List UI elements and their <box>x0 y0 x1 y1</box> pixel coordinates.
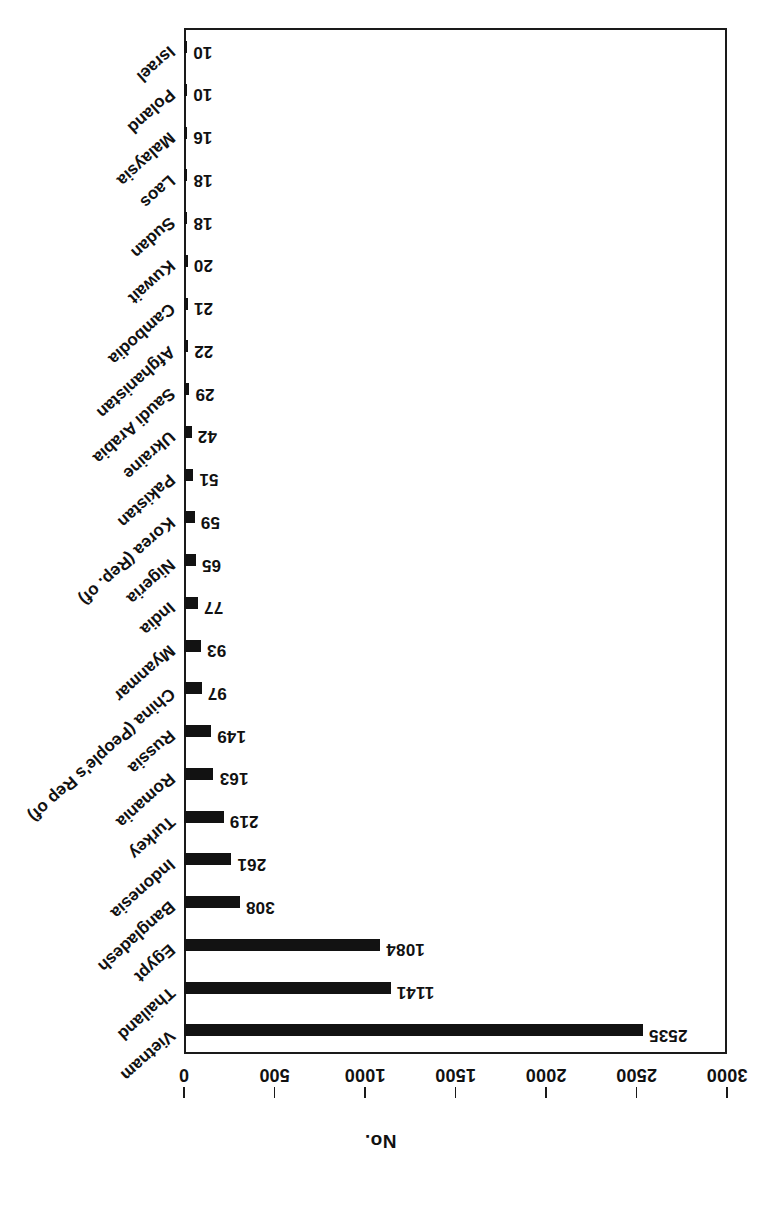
value-axis-tick <box>274 1087 276 1098</box>
value-axis-tick-label: 0 <box>179 1064 189 1085</box>
value-axis-tick <box>183 1087 185 1098</box>
category-label: Poland <box>124 85 178 136</box>
figure-rotation-wrapper: No. 050010001500200025003000 25351141108… <box>0 0 761 1208</box>
category-label: India <box>136 598 178 638</box>
value-axis-tick-label: 3000 <box>707 1064 748 1085</box>
bar-chart-figure: No. 050010001500200025003000 25351141108… <box>0 0 761 1208</box>
value-axis-title: No. <box>0 1130 761 1152</box>
value-axis-tick-label: 2000 <box>526 1064 567 1085</box>
value-axis-tick <box>455 1087 457 1098</box>
value-axis: 050010001500200025003000 <box>184 1054 727 1098</box>
category-label: Sudan <box>127 214 178 262</box>
value-axis-tick-label: 2500 <box>616 1064 657 1085</box>
value-axis-tick-label: 500 <box>259 1064 290 1085</box>
value-axis-tick <box>636 1087 638 1098</box>
value-axis-tick <box>364 1087 366 1098</box>
category-axis-labels: VietnamThailandEgyptBangladeshIndonesiaT… <box>184 28 727 1054</box>
category-label: Kuwait <box>125 256 178 307</box>
value-axis-tick <box>545 1087 547 1098</box>
category-label: Laos <box>136 171 178 211</box>
value-axis-tick-label: 1000 <box>345 1064 386 1085</box>
value-axis-tick-label: 1500 <box>435 1064 476 1085</box>
category-label: Israel <box>133 43 178 86</box>
value-axis-tick <box>726 1087 728 1098</box>
